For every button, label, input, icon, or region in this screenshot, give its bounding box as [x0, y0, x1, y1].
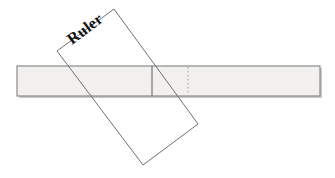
- measuring-strip: [17, 66, 320, 96]
- ruler-diagram: Ruler: [0, 0, 335, 178]
- ruler-label: Ruler: [64, 10, 106, 48]
- figure-canvas: Ruler: [0, 0, 335, 178]
